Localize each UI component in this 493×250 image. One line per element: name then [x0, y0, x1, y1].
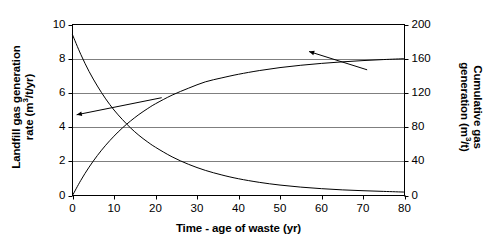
x-axis-tick-label: 40 [226, 202, 252, 214]
x-axis-tick-label: 80 [392, 202, 418, 214]
x-axis-tick-label: 0 [60, 202, 86, 214]
right-arrow-to-rate-curve-head [309, 51, 315, 56]
y-axis-primary-tick-label: 0 [40, 189, 66, 201]
y-axis-secondary-tick-label: 0 [412, 189, 442, 201]
x-axis-tick-label: 30 [184, 202, 210, 214]
y-axis-secondary-tick-label: 40 [412, 154, 442, 166]
y-axis-primary-tick-label: 2 [40, 154, 66, 166]
data-curves [73, 35, 405, 196]
y-axis-secondary-tick-label: 80 [412, 120, 442, 132]
left-arrow-to-cumulative-curve [77, 98, 162, 115]
x-axis-tick-label: 10 [101, 202, 127, 214]
y-axis-primary-tick-label: 6 [40, 86, 66, 98]
left-arrow-to-cumulative-curve-head [77, 111, 83, 116]
axis-ticks [69, 26, 409, 200]
y-axis-primary-tick-label: 4 [40, 120, 66, 132]
y-axis-primary-tick-label: 10 [40, 18, 66, 30]
y-axis-secondary-tick-label: 200 [412, 18, 442, 30]
plot-frame [73, 25, 405, 196]
landfill-gas-generation-chart: Landfill gas generationrate (m3/t/yr) Cu… [0, 0, 493, 250]
x-axis-tick-label: 60 [309, 202, 335, 214]
y-axis-secondary-tick-label: 120 [412, 86, 442, 98]
x-axis-tick-label: 20 [143, 202, 169, 214]
annotation-arrows [77, 51, 368, 116]
x-axis-tick-label: 50 [267, 202, 293, 214]
y-axis-secondary-tick-label: 160 [412, 52, 442, 64]
gridlines [73, 60, 405, 162]
y-axis-primary-tick-label: 8 [40, 52, 66, 64]
x-axis-tick-label: 70 [350, 202, 376, 214]
series-curve-0 [73, 35, 405, 192]
